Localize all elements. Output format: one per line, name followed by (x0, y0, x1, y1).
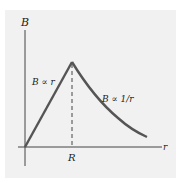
magnetic-field-diagram: B r R B ∝ r B ∝ 1/r (0, 0, 186, 183)
r-tick-label: R (67, 152, 76, 163)
outer-field-label: B ∝ 1/r (101, 94, 134, 104)
y-axis-label: B (20, 16, 29, 29)
inner-field-line (25, 62, 72, 147)
inner-field-label: B ∝ r (31, 77, 55, 87)
x-axis-label: r (163, 142, 168, 152)
